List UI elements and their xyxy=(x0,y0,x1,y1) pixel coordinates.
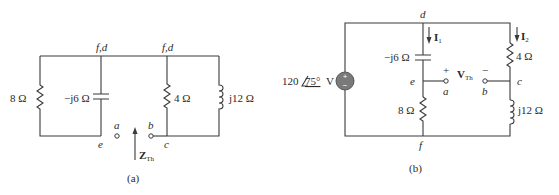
source-unit: V xyxy=(326,75,334,87)
diagram-canvas: f,d f,d 8 Ω −j6 Ω 4 Ω j12 Ω e c a b ZTh … xyxy=(0,0,559,195)
terminal-label-a: a xyxy=(114,119,120,131)
terminal-a xyxy=(444,79,448,83)
node-label-fd-left: f,d xyxy=(96,41,108,53)
current-i1-arrow-head xyxy=(427,37,432,44)
capacitor-j6 xyxy=(93,56,109,136)
node-label-fd-right: f,d xyxy=(162,41,174,53)
vth-minus: − xyxy=(482,64,488,76)
label-j12-ohm: j12 Ω xyxy=(517,104,543,116)
label-8-ohm: 8 Ω xyxy=(398,104,414,116)
current-i2-label: I2 xyxy=(521,30,529,44)
terminal-b xyxy=(149,134,153,138)
terminal-b xyxy=(483,79,487,83)
circuit-b: + − d f e c a b + − VTh I1 I2 −j6 Ω 8 Ω … xyxy=(282,8,543,175)
label-j12-ohm: j12 Ω xyxy=(228,92,254,104)
caption-a: (a) xyxy=(127,172,140,185)
source-label: 120 75° V xyxy=(282,75,334,87)
label-j6-ohm: −j6 Ω xyxy=(64,92,90,104)
resistor-4-ohm xyxy=(164,56,170,136)
node-label-c: c xyxy=(164,138,169,150)
source-minus: − xyxy=(343,81,348,90)
inductor-j12 xyxy=(510,100,514,124)
node-label-e: e xyxy=(98,138,103,150)
node-label-c: c xyxy=(517,75,522,87)
current-i1-label: I1 xyxy=(434,31,442,45)
zth-label: ZTh xyxy=(139,149,155,163)
source-angle: 75° xyxy=(305,75,320,87)
label-4-ohm: 4 Ω xyxy=(174,92,190,104)
resistor-4-ohm xyxy=(507,43,513,100)
current-i2-arrow-head xyxy=(515,35,520,42)
label-j6-ohm: −j6 Ω xyxy=(384,51,410,63)
vth-label: VTh xyxy=(457,68,473,82)
circuit-a: f,d f,d 8 Ω −j6 Ω 4 Ω j12 Ω e c a b ZTh … xyxy=(10,41,254,185)
node-label-f: f xyxy=(419,139,424,151)
caption-b: (b) xyxy=(409,162,422,175)
source-magnitude: 120 xyxy=(282,75,299,87)
node-label-e: e xyxy=(410,75,415,87)
resistor-8-ohm xyxy=(420,97,426,136)
terminal-label-a: a xyxy=(443,85,449,97)
terminal-label-b: b xyxy=(148,119,154,131)
terminal-a xyxy=(115,134,119,138)
terminal-label-b: b xyxy=(482,85,488,97)
source-plus: + xyxy=(343,72,348,81)
label-4-ohm: 4 Ω xyxy=(516,50,532,62)
zth-arrow-head xyxy=(133,127,138,134)
label-8-ohm: 8 Ω xyxy=(10,92,26,104)
vth-plus: + xyxy=(443,64,449,76)
node-label-d: d xyxy=(420,8,426,20)
